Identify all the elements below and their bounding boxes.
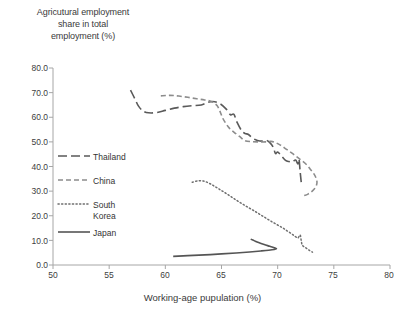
plot-area <box>0 0 405 318</box>
series-line-china <box>161 95 317 195</box>
series-line-japan <box>173 239 276 256</box>
chart-container: Agricutural employment share in total em… <box>0 0 405 318</box>
series-line-south-korea <box>192 181 312 253</box>
